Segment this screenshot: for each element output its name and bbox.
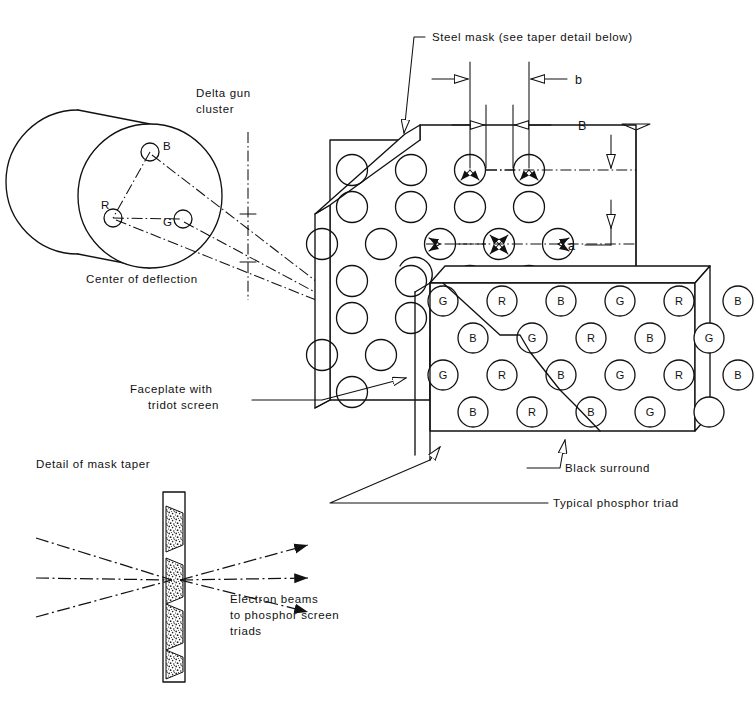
taper-beam-in-mid: [36, 578, 172, 580]
svg-text:R: R: [675, 369, 683, 381]
gun-cylinder-back-arc: [6, 110, 78, 254]
phosphor-dot: B: [458, 397, 488, 427]
svg-text:B: B: [469, 406, 476, 418]
electron-beams-label-line1: Electron beams: [230, 593, 318, 605]
svg-text:G: G: [616, 295, 625, 307]
phosphor-dot: B: [546, 360, 576, 390]
faceplate-label-line1: Faceplate with: [130, 383, 213, 395]
delta-gun-cluster-group: B R G Delta gun cluster: [6, 87, 251, 268]
faceplate-top-bevel: [430, 266, 710, 283]
faceplate-label-line2: tridot screen: [148, 399, 219, 411]
svg-text:R: R: [498, 295, 506, 307]
taper-beam-in-bottom: [36, 580, 172, 617]
electron-beams-label-line2: to phosphor screen: [230, 609, 339, 621]
svg-text:G: G: [646, 406, 655, 418]
mask-taper-detail-group: Detail of mask taper Electron beams to p…: [36, 458, 339, 682]
phosphor-dot: G: [428, 360, 458, 390]
phosphor-dot: B: [723, 286, 753, 316]
taper-wedge: [166, 506, 183, 552]
svg-text:R: R: [528, 406, 536, 418]
svg-text:B: B: [734, 295, 741, 307]
phosphor-dot: G: [428, 286, 458, 316]
svg-text:R: R: [675, 295, 683, 307]
phosphor-dot: B: [635, 323, 665, 353]
svg-text:B: B: [587, 406, 594, 418]
electron-beams-label-line3: triads: [230, 625, 262, 637]
phosphor-dot: R: [487, 286, 517, 316]
svg-text:G: G: [705, 332, 714, 344]
phosphor-dot: R: [517, 397, 547, 427]
phosphor-dot: G: [605, 360, 635, 390]
black-surround-leader: [527, 440, 565, 468]
typical-phosphor-triad-label: Typical phosphor triad: [553, 497, 679, 509]
svg-text:B: B: [557, 369, 564, 381]
phosphor-dot: R: [487, 360, 517, 390]
phosphor-triad-arrow: [430, 447, 440, 460]
delta-gun-cluster-label-line1: Delta gun: [196, 87, 251, 99]
svg-text:B: B: [469, 332, 476, 344]
svg-text:R: R: [587, 332, 595, 344]
phosphor-dot: R: [576, 323, 606, 353]
phosphor-dot: G: [605, 286, 635, 316]
taper-wedge: [166, 604, 183, 650]
svg-text:B: B: [734, 369, 741, 381]
faceplate-group: G R B G R B B G R B G G R B G R B B R B: [400, 257, 753, 460]
steel-mask-label: Steel mask (see taper detail below): [432, 31, 633, 43]
gun-cylinder-top-edge: [78, 110, 150, 124]
svg-text:B: B: [646, 332, 653, 344]
svg-text:G: G: [439, 369, 448, 381]
taper-beam-in-top: [36, 538, 172, 580]
detail-of-mask-taper-label: Detail of mask taper: [36, 458, 150, 470]
dim-label-a: a: [568, 239, 575, 253]
dim-label-b: b: [575, 73, 582, 87]
phosphor-dot: G: [694, 323, 724, 353]
phosphor-dot: R: [664, 286, 694, 316]
phosphor-dot: B: [723, 360, 753, 390]
taper-beam-out-top: [180, 545, 308, 580]
phosphor-dot: [694, 397, 724, 427]
svg-text:R: R: [498, 369, 506, 381]
steel-mask-left-edge: [315, 205, 330, 408]
gun-label-green: G: [163, 216, 172, 228]
phosphor-triad-leader: [330, 460, 548, 503]
gun-label-blue: B: [163, 140, 171, 152]
taper-beam-out-mid: [180, 578, 308, 580]
phosphor-dot: G: [635, 397, 665, 427]
center-of-deflection-label: Center of deflection: [86, 273, 198, 285]
gun-cylinder-front-face: [78, 124, 222, 268]
svg-text:G: G: [439, 295, 448, 307]
svg-text:G: G: [616, 369, 625, 381]
black-surround-label: Black surround: [565, 462, 650, 474]
diagram-canvas: B R G Delta gun cluster Center of deflec…: [0, 0, 754, 708]
dim-label-B: B: [578, 119, 586, 133]
delta-gun-cluster-label-line2: cluster: [196, 103, 234, 115]
steel-mask-leader: [404, 37, 425, 133]
phosphor-dot: B: [546, 286, 576, 316]
phosphor-dot: B: [458, 323, 488, 353]
svg-text:G: G: [528, 332, 537, 344]
phosphor-dot: R: [664, 360, 694, 390]
gun-label-red: R: [101, 199, 109, 211]
svg-text:B: B: [557, 295, 564, 307]
